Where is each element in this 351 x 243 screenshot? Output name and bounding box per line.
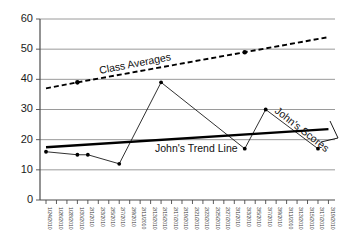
data-point-marker: [75, 153, 79, 157]
x-axis-tick-label: 1/28/2010: [68, 207, 74, 230]
x-axis-tick-label: 1/26/2010: [58, 207, 64, 230]
x-axis-tick-label: 3/13/2010: [298, 207, 304, 230]
data-point-marker: [44, 150, 48, 154]
x-axis-tick-label: 2/21/2010: [194, 207, 200, 230]
x-axis-tick-label: 2/1/2010: [89, 207, 95, 227]
x-axis-tick-label: 2/5/2010: [110, 207, 116, 227]
data-point-marker: [242, 50, 247, 55]
data-point-marker: [243, 147, 247, 151]
y-axis-tick-label: 60: [21, 12, 33, 24]
data-point-marker: [86, 153, 90, 157]
x-axis-tick-label: 3/5/2010: [256, 207, 262, 227]
x-axis-tick-label: 2/17/2010: [173, 207, 179, 230]
x-axis-tick-label: 3/7/2010: [267, 207, 273, 227]
data-point-marker: [117, 162, 121, 166]
x-axis-tick-label: 3/3/2010: [246, 207, 252, 227]
x-axis-tick-label: 3/19/2010: [330, 207, 336, 230]
y-axis-tick-label: 40: [21, 72, 33, 84]
x-axis-tick-label: 1/30/2010: [79, 207, 85, 230]
x-axis-tick-label: 3/1/2010: [235, 207, 241, 227]
x-axis-tick-label: 2/3/2010: [100, 207, 106, 227]
chart-container: 0102030405060 1/24/20101/26/20101/28/201…: [0, 0, 351, 243]
line-chart: 0102030405060 1/24/20101/26/20101/28/201…: [0, 0, 351, 243]
x-axis-tick-label: 2/23/2010: [204, 207, 210, 230]
x-axis-tick-label: 3/9/2010: [277, 207, 283, 227]
x-axis-tick-label: 2/7/2010: [120, 207, 126, 227]
annotation-johns-trend-line: John's Trend Line: [155, 142, 238, 154]
data-point-marker: [264, 108, 268, 112]
x-axis-tick-label: 2/11/2010: [141, 207, 147, 229]
y-axis-tick-label: 50: [21, 42, 33, 54]
x-axis-tick-label: 2/9/2010: [131, 207, 137, 227]
x-axis-tick-label: 3/17/2010: [319, 207, 325, 230]
y-axis-tick-label: 20: [21, 133, 33, 145]
x-axis-tick-label: 2/27/2010: [225, 207, 231, 230]
x-axis-tick-label: 3/15/2010: [309, 207, 315, 230]
x-axis-tick-label: 2/19/2010: [183, 207, 189, 230]
y-axis-tick-label: 0: [27, 193, 33, 205]
x-axis-tick-label: 2/25/2010: [215, 207, 221, 230]
x-axis-tick-label: 2/13/2010: [152, 207, 158, 230]
x-axis-tick-label: 2/15/2010: [162, 207, 168, 230]
x-axis-tick-label: 3/11/2010: [288, 207, 294, 229]
data-point-marker: [75, 80, 80, 85]
y-axis-tick-label: 10: [21, 163, 33, 175]
x-axis-tick-label: 1/24/2010: [47, 207, 53, 230]
data-point-marker: [159, 80, 163, 84]
y-axis-tick-label: 30: [21, 102, 33, 114]
